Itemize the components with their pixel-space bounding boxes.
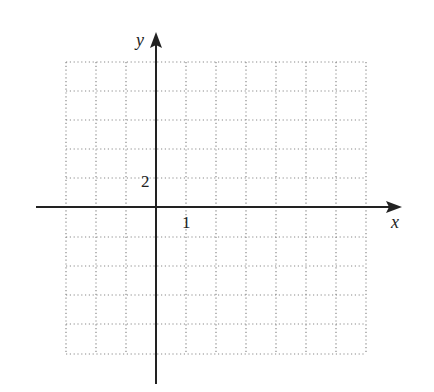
coordinate-plane: y x 2 1	[0, 0, 434, 392]
x-axis	[36, 201, 402, 213]
x-tick-label: 1	[182, 213, 191, 232]
y-axis-label: y	[134, 30, 144, 50]
y-tick-label: 2	[141, 172, 150, 191]
x-axis-label: x	[390, 212, 399, 232]
